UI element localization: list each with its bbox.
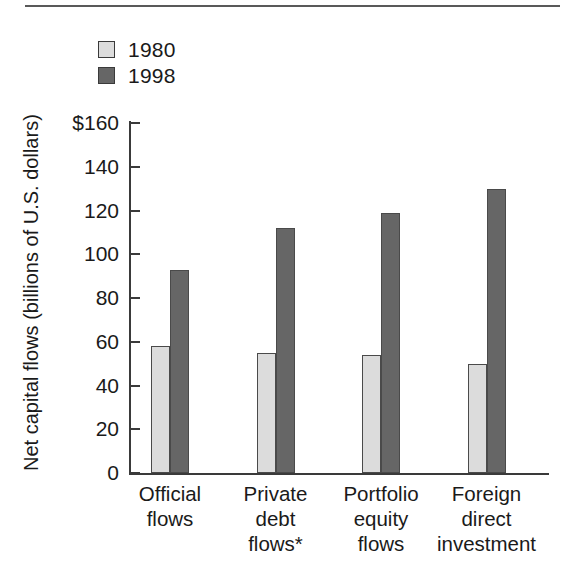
- legend-label-1980: 1980: [128, 39, 176, 60]
- legend-label-1998: 1998: [128, 65, 176, 86]
- x-axis-line: [129, 473, 549, 475]
- bar-chart-figure: 1980 1998 $160140120100806040200 Officia…: [0, 0, 568, 587]
- chart-legend: 1980 1998: [98, 36, 258, 88]
- bar-1980-3: [468, 364, 487, 473]
- y-axis-title: Net capital flows (billions of U.S. doll…: [20, 141, 42, 471]
- bar-1998-0: [170, 270, 189, 473]
- legend-item-1998: 1998: [98, 62, 258, 88]
- y-tick-label: $160: [72, 112, 119, 133]
- y-tick-mark: [129, 341, 140, 343]
- bar-1980-1: [257, 353, 276, 473]
- y-tick-label: 140: [84, 156, 119, 177]
- legend-item-1980: 1980: [98, 36, 258, 62]
- y-tick-mark: [129, 166, 140, 168]
- bar-1998-1: [276, 228, 295, 473]
- y-tick-mark: [129, 297, 140, 299]
- bar-1998-2: [381, 213, 400, 473]
- x-category-label: Portfolio equity flows: [322, 481, 440, 556]
- bar-1980-0: [151, 346, 170, 473]
- y-tick-label: 80: [96, 287, 119, 308]
- y-tick-label: 0: [107, 462, 119, 483]
- y-tick-mark: [129, 210, 140, 212]
- y-tick-mark: [129, 472, 140, 474]
- y-tick-label: 40: [96, 375, 119, 396]
- x-category-label: Private debt flows*: [217, 481, 335, 556]
- bar-1998-3: [487, 189, 506, 473]
- y-tick-mark: [129, 122, 140, 124]
- y-tick-label: 60: [96, 331, 119, 352]
- y-tick-label: 100: [84, 243, 119, 264]
- x-category-label: Official flows: [111, 481, 229, 531]
- y-tick-mark: [129, 428, 140, 430]
- bar-1980-2: [362, 355, 381, 473]
- y-axis-tick-labels: $160140120100806040200: [0, 0, 119, 587]
- y-tick-label: 120: [84, 200, 119, 221]
- y-tick-mark: [129, 385, 140, 387]
- y-tick-label: 20: [96, 418, 119, 439]
- y-tick-mark: [129, 253, 140, 255]
- x-category-label: Foreign direct investment: [428, 481, 546, 556]
